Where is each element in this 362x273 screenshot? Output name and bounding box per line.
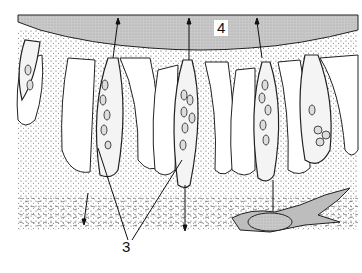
epithelium-diagram (0, 0, 362, 273)
label-4: 4 (214, 20, 228, 36)
pigment-nucleus (248, 213, 292, 231)
label-3: 3 (122, 238, 130, 255)
